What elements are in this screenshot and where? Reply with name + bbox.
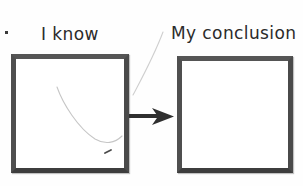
panel-label-conclusion: My conclusion	[171, 25, 296, 42]
figure-canvas: I know My conclusion	[0, 0, 303, 186]
ink-speck-icon	[5, 31, 8, 34]
panel-frame-known	[11, 54, 129, 173]
panel-label-known: I know	[41, 26, 99, 43]
panel-frame-conclusion	[177, 56, 293, 173]
